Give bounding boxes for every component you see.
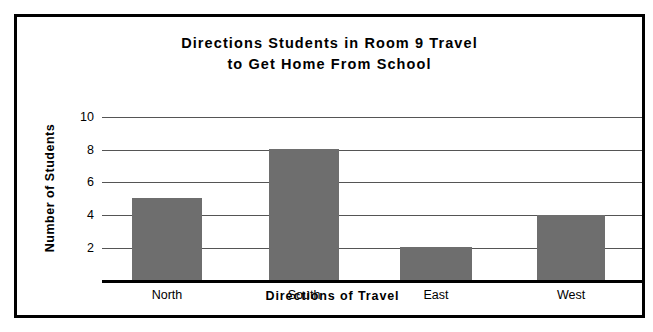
- chart-page: Directions Students in Room 9 Travel to …: [0, 0, 653, 332]
- bar-north: [132, 198, 202, 280]
- y-tick-label-2: 2: [87, 241, 94, 255]
- y-tick-label-6: 6: [87, 175, 94, 189]
- chart-title: Directions Students in Room 9 Travel to …: [17, 33, 642, 75]
- y-tick-label-10: 10: [80, 110, 94, 124]
- plot-area: 10 8 6 4 2 North South East West: [102, 113, 642, 284]
- chart-frame: Directions Students in Room 9 Travel to …: [14, 14, 645, 318]
- bar-east: [400, 247, 472, 280]
- x-axis-baseline: [102, 280, 642, 283]
- chart-title-line-2: to Get Home From School: [17, 54, 642, 75]
- gridline-8: 8: [102, 150, 642, 151]
- gridline-10: 10: [102, 117, 642, 118]
- y-tick-label-8: 8: [87, 143, 94, 157]
- y-axis-title-label: Number of Students: [41, 103, 59, 273]
- y-axis-title: Number of Students: [41, 103, 59, 273]
- bar-west: [537, 215, 605, 280]
- bar-south: [269, 149, 339, 280]
- x-axis-title: Directions of Travel: [17, 289, 648, 303]
- gridline-6: 6: [102, 182, 642, 183]
- chart-title-line-1: Directions Students in Room 9 Travel: [17, 33, 642, 54]
- y-tick-label-4: 4: [87, 208, 94, 222]
